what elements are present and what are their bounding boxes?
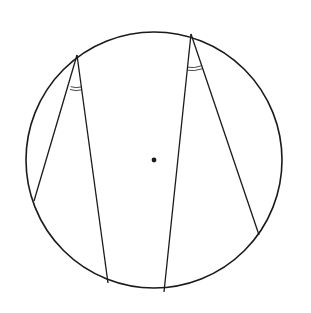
center-point	[152, 158, 157, 163]
chord-d-e	[164, 34, 191, 292]
angle-mark-a-icon	[70, 87, 82, 91]
chord-a-b	[34, 55, 77, 201]
circle-diagram	[0, 0, 311, 313]
angle-mark-d-icon	[187, 66, 202, 71]
chord-a-c	[77, 55, 108, 283]
chord-d-f	[191, 34, 259, 235]
diagram-canvas	[0, 0, 311, 313]
